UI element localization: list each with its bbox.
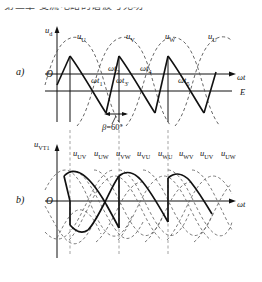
wave-sub: WV	[183, 153, 193, 160]
panel-b-x-axis-label: ωt	[237, 199, 245, 209]
panel-a-sine-uW	[126, 37, 220, 126]
beta-arrow-right	[122, 112, 128, 116]
panel-b-wave-label-uUV2: uUV	[200, 148, 213, 160]
panel-a-x-axis-label: ωt	[237, 72, 245, 82]
panel-b-origin-label: O	[46, 196, 53, 206]
panel-a-y-axis-label: ud	[45, 25, 52, 37]
panel-b-x-arrow	[229, 199, 236, 204]
panel-a-wave-label-uW: uW	[165, 31, 175, 43]
wave-sub: VU	[141, 153, 150, 160]
panel-a-wave-label-uU2: uU	[208, 31, 217, 43]
panel-a-time-mark-1: ωt1	[91, 75, 102, 87]
wave-sub: UW	[225, 153, 235, 160]
wave-sub: WU	[162, 153, 172, 160]
panel-b-wave-label-uWV: uWV	[179, 148, 194, 160]
panel-b-uvt1-seg-8	[106, 176, 119, 200]
panel-b-wave-label-uWU: uWU	[158, 148, 173, 160]
panel-b-sine-5	[119, 170, 189, 236]
panel-b-uvt1-seg-5	[106, 204, 119, 228]
time-sub: 4	[148, 68, 151, 75]
panel-a-beta-label: β=60°	[102, 122, 123, 132]
panel-b-wave-label-uVW: uVW	[116, 148, 131, 160]
wave-sub: U	[212, 36, 216, 43]
panel-a-time-mark-4: ωt4	[140, 63, 151, 75]
wave-sub: VW	[120, 153, 130, 160]
panel-a-ud-seg-0	[57, 56, 70, 85]
panel-b-wave-label-uUW: uUW	[94, 148, 109, 160]
panel-b-uvt1-seg-13	[190, 181, 212, 214]
panel-b-uvt1-seg-3	[64, 172, 80, 176]
panel-a-label: a)	[16, 66, 24, 77]
panel-a-ud-waveform	[57, 56, 216, 113]
panel-a-wave-label-uU: uU	[77, 31, 86, 43]
panel-b-sine-2	[57, 210, 101, 238]
panel-b-line-voltage-group	[45, 170, 232, 244]
panel-b-sine-6	[143, 170, 213, 236]
panel-b-wave-label-uUW2: uUW	[221, 148, 236, 160]
panel-b-y-arrow	[55, 144, 60, 151]
time-sub: 2	[116, 68, 119, 75]
wave-sub: V	[130, 36, 134, 43]
wave-sub: UV	[204, 153, 213, 160]
panel-a-y-arrow	[55, 26, 60, 33]
panel-b-sine-7	[168, 170, 232, 236]
panel-a-origin-label: O	[46, 69, 53, 79]
panel-b-sine-12	[167, 176, 232, 240]
wave-sub: U	[81, 36, 85, 43]
panel-b-wave-label-uVU: uVU	[137, 148, 150, 160]
panel-a-x-arrow	[229, 72, 236, 77]
beta-value: 60°	[111, 122, 123, 132]
panel-b-uvt1-seg-12	[168, 174, 190, 181]
time-sub: 1	[99, 80, 102, 87]
time-sub: 5	[186, 80, 189, 87]
time-sub: 3'	[124, 80, 128, 87]
panel-a-time-mark-2: ωt2	[108, 63, 119, 75]
wave-sub: W	[169, 36, 175, 43]
wave-sub: UW	[98, 153, 108, 160]
panel-a-E-label: E	[240, 87, 245, 97]
panel-b-sine-13	[45, 206, 92, 244]
panel-b-wave-label-uUV: uUV	[73, 148, 86, 160]
panel-b-y-axis-label: uVT1	[34, 139, 50, 151]
panel-a-y-axis-sub: d	[49, 30, 52, 37]
figure-page: 第二章 变流电路的谐波与无功	[0, 0, 262, 282]
wave-sub: UV	[77, 153, 86, 160]
panel-a-wave-label-uV: uV	[126, 31, 135, 43]
panel-a-time-mark-5: ωt5	[178, 75, 189, 87]
panel-b-label: b)	[16, 194, 24, 205]
panel-b-y-axis-sub: VT1	[38, 144, 49, 151]
panel-a-ud-seg-4	[155, 56, 168, 113]
panel-a-time-mark-3: ωt3'	[116, 75, 129, 87]
panel-b-sine-8	[192, 170, 232, 230]
